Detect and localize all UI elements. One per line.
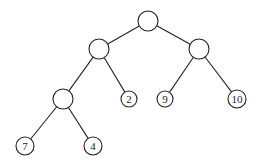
tree-edge [108,26,140,44]
node-label: 10 [232,93,244,105]
node-circle [53,89,73,109]
tree-nodes: 291074 [16,11,246,155]
node-circle [189,39,209,59]
tree-edge [68,107,88,138]
node-label: 9 [162,93,168,105]
node-label: 7 [22,140,28,152]
tree-edge [31,107,57,139]
tree-node [53,89,73,109]
tree-node [138,11,158,31]
tree-edge [205,57,232,92]
tree-node [89,39,109,59]
tree-node: 10 [228,90,246,108]
node-label: 2 [126,93,132,105]
tree-node: 7 [16,137,34,155]
tree-edge [69,57,93,91]
tree-node: 9 [157,91,173,107]
binary-tree-diagram: 291074 [0,0,258,168]
tree-node: 2 [121,91,137,107]
node-circle [89,39,109,59]
tree-edge [169,57,193,92]
tree-node [189,39,209,59]
node-label: 4 [90,140,96,152]
tree-edge [157,26,190,44]
tree-node: 4 [84,137,102,155]
tree-edge [104,58,125,93]
node-circle [138,11,158,31]
